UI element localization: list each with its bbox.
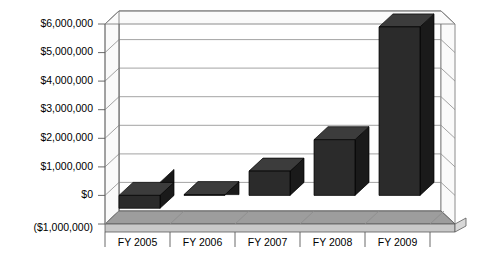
y-axis-label-6000000: $6,000,000 — [40, 17, 93, 29]
bar-fy-2007-front — [249, 171, 290, 195]
chart-container: $6,000,000 $5,000,000 $4,000,000 $3,000,… — [0, 0, 477, 269]
y-axis-labels: $6,000,000 $5,000,000 $4,000,000 $3,000,… — [33, 17, 93, 233]
y-axis-label-2000000: $2,000,000 — [40, 131, 93, 143]
y-axis-label-3000000: $3,000,000 — [40, 102, 93, 114]
right-wall — [441, 11, 455, 224]
bar-fy-2008 — [314, 127, 369, 196]
x-axis-label-fy-2007: FY 2007 — [248, 236, 288, 248]
bar-fy-2009 — [379, 14, 434, 196]
floor-top-face — [105, 211, 455, 224]
left-wall — [105, 11, 119, 224]
x-axis-label-fy-2005: FY 2005 — [118, 236, 158, 248]
x-axis-label-fy-2006: FY 2006 — [183, 236, 223, 248]
bar-chart-3d: $6,000,000 $5,000,000 $4,000,000 $3,000,… — [0, 0, 477, 269]
y-axis-label-neg1000000: ($1,000,000) — [33, 221, 93, 233]
y-axis-label-4000000: $4,000,000 — [40, 74, 93, 86]
x-axis-label-fy-2008: FY 2008 — [313, 236, 353, 248]
bar-fy-2006-front — [184, 195, 225, 196]
floor-platform — [105, 211, 466, 232]
bar-fy-2005-front — [119, 195, 160, 208]
x-axis-labels: FY 2005 FY 2006 FY 2007 FY 2008 FY 2009 — [118, 236, 418, 248]
bar-fy-2009-front — [379, 27, 420, 196]
y-axis-label-0: $0 — [81, 188, 93, 200]
y-axis-label-5000000: $5,000,000 — [40, 45, 93, 57]
bar-fy-2009-side — [420, 14, 434, 196]
y-axis-label-1000000: $1,000,000 — [40, 160, 93, 172]
x-axis-label-fy-2009: FY 2009 — [378, 236, 418, 248]
floor-front-face — [105, 224, 455, 232]
bar-fy-2007 — [249, 158, 304, 195]
bar-fy-2008-front — [314, 140, 355, 196]
floor-side-face — [455, 218, 466, 232]
